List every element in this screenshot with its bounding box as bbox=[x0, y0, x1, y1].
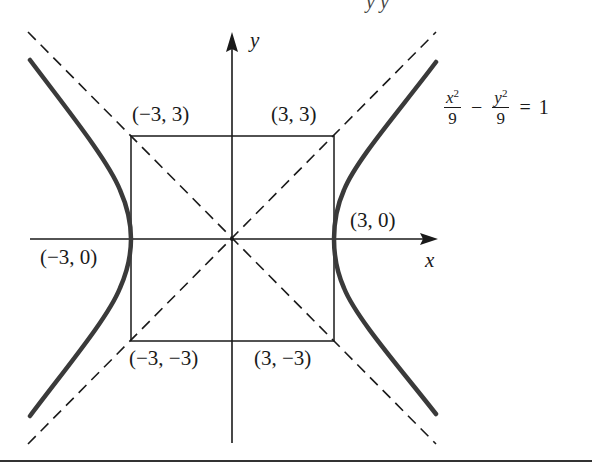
hyperbola-right-branch bbox=[334, 62, 436, 414]
equation-rhs: 1 bbox=[539, 96, 549, 119]
equation-term-y: y2 9 bbox=[492, 88, 509, 127]
point-label-vertex-right: (3, 0) bbox=[350, 210, 396, 231]
bottom-rule-divider bbox=[0, 460, 592, 462]
point-label-bottom-right: (3, −3) bbox=[254, 348, 311, 369]
hyperbola-equation: x2 9 − y2 9 = 1 bbox=[442, 88, 549, 127]
hyperbola-figure: y y y x (−3, 3) (3, 3) (−3, 0) (3, 0) (−… bbox=[0, 0, 592, 465]
equation-minus: − bbox=[471, 96, 482, 119]
origin-dot bbox=[230, 237, 234, 241]
plot-canvas bbox=[0, 0, 592, 465]
point-label-bottom-left: (−3, −3) bbox=[129, 348, 198, 369]
y-axis-label: y bbox=[250, 30, 259, 51]
point-label-vertex-left: (−3, 0) bbox=[40, 247, 97, 268]
y-axis-arrow-icon bbox=[226, 32, 238, 52]
equation-equals: = bbox=[519, 96, 530, 119]
hyperbola-left-branch bbox=[30, 60, 131, 416]
equation-term-x: x2 9 bbox=[444, 88, 461, 127]
point-label-top-left: (−3, 3) bbox=[132, 104, 189, 125]
x-axis-label: x bbox=[425, 250, 434, 271]
point-label-top-right: (3, 3) bbox=[271, 104, 317, 125]
